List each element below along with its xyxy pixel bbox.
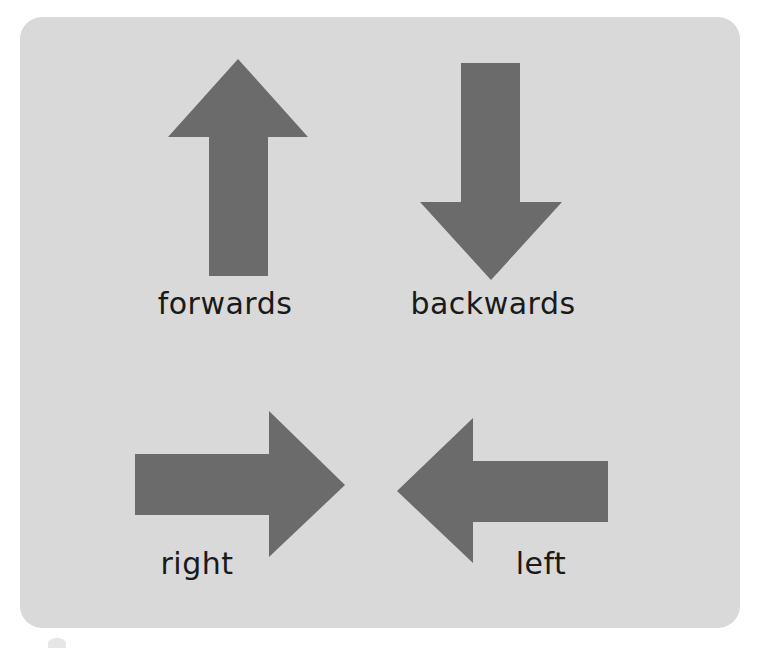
label-left: left [516,549,567,579]
label-backwards: backwards [410,289,575,319]
page-edge-mark [48,638,66,648]
arrow-up-icon [168,59,308,276]
arrow-down-icon [420,63,562,280]
label-forwards: forwards [158,289,293,319]
arrow-left-icon [397,418,608,563]
label-right: right [161,549,234,579]
arrow-right-icon [135,411,345,557]
